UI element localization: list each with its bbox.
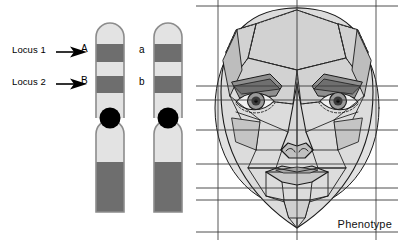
band-terminal (95, 162, 125, 214)
band-terminal (153, 162, 183, 214)
allele-a-label: a (139, 44, 145, 55)
locus-2-label: Locus 2 (12, 76, 46, 87)
centromere (100, 108, 121, 129)
centromere (158, 108, 179, 129)
figure-canvas: Locus 1 A a Locus 2 B b (0, 0, 398, 240)
allele-b-label: b (139, 76, 145, 87)
band-locus-1 (95, 44, 125, 62)
facial-mesh-diagram (196, 0, 398, 240)
locus-1-label: Locus 1 (12, 44, 46, 55)
chromosome-left (95, 22, 125, 214)
band-locus-1 (153, 44, 183, 62)
band-locus-2 (153, 76, 183, 93)
band-locus-2 (95, 76, 125, 93)
phenotype-label: Phenotype (338, 218, 392, 230)
allele-B-label: B (81, 75, 88, 86)
chromosome-right (153, 22, 183, 214)
allele-A-label: A (81, 43, 88, 54)
